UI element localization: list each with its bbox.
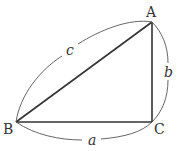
arc-b-lower — [152, 80, 168, 122]
arc-c-lower — [16, 56, 62, 122]
edge-ba — [16, 22, 152, 122]
side-label-c: c — [66, 42, 74, 58]
side-label-b: b — [164, 64, 173, 80]
vertex-label-c: C — [154, 121, 165, 137]
triangle-diagram: A B C c b a — [0, 0, 181, 151]
arc-c-upper — [78, 21, 152, 44]
arc-a-left — [16, 122, 82, 140]
arc-b-upper — [152, 22, 168, 63]
side-label-a: a — [88, 132, 96, 148]
arc-a-right — [101, 122, 152, 139]
vertex-label-b: B — [3, 121, 13, 137]
vertex-label-a: A — [145, 4, 157, 20]
